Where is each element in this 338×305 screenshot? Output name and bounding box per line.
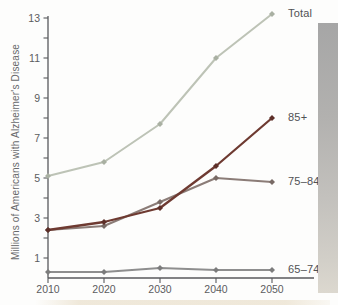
- svg-text:9: 9: [34, 92, 40, 104]
- series-label-75-84: 75–84: [288, 175, 320, 187]
- page-edge-shading: [318, 23, 338, 293]
- page-bottom-shadow: [35, 300, 330, 305]
- series-label-85plus: 85+: [288, 111, 307, 123]
- svg-text:1: 1: [34, 252, 40, 264]
- svg-text:2050: 2050: [260, 283, 284, 295]
- svg-text:11: 11: [29, 52, 40, 64]
- svg-text:5: 5: [34, 172, 40, 184]
- svg-text:3: 3: [34, 212, 40, 224]
- chart-canvas: 13579111320102020203020402050: [0, 0, 338, 305]
- series-label-65-74: 65–74: [288, 263, 320, 275]
- series-label-total: Total: [288, 7, 312, 19]
- svg-text:13: 13: [28, 12, 40, 24]
- y-axis-title: Millions of Americans with Alzheimer's D…: [10, 44, 21, 260]
- alzheimers-projection-chart: 13579111320102020203020402050 Millions o…: [0, 0, 338, 305]
- svg-text:2030: 2030: [148, 283, 172, 295]
- svg-text:7: 7: [34, 132, 40, 144]
- svg-text:2020: 2020: [92, 283, 116, 295]
- svg-text:2040: 2040: [204, 283, 228, 295]
- svg-text:2010: 2010: [36, 283, 60, 295]
